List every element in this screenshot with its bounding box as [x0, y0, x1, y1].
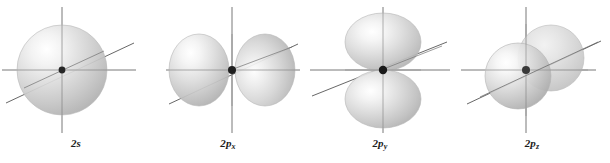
orbital-label-2pz-subscript: z	[536, 142, 539, 151]
orbital-label-2px: 2px	[152, 136, 304, 154]
nucleus-dot-2px	[228, 66, 236, 74]
orbital-label-2py: 2py	[304, 136, 456, 154]
orbital-panel-2pz: 2pz	[456, 0, 608, 163]
orbital-label-2s: 2s	[0, 136, 152, 150]
nucleus-dot-2s	[59, 67, 66, 74]
orbital-label-2s-letter: s	[77, 137, 81, 149]
orbital-label-2py-subscript: y	[384, 142, 388, 151]
orbital-lobe-2pz-near	[485, 43, 551, 109]
orbital-diagram-2px	[152, 0, 304, 140]
orbital-diagram-2pz	[456, 0, 608, 140]
orbital-panel-2px: 2px	[152, 0, 304, 163]
orbital-diagram-2s	[0, 0, 152, 140]
orbital-diagram-2py	[304, 0, 456, 140]
orbital-label-2px-subscript: x	[232, 142, 236, 151]
nucleus-dot-2pz	[522, 66, 530, 74]
orbital-panel-2s: 2s	[0, 0, 152, 163]
orbital-label-2pz: 2pz	[456, 136, 608, 154]
orbital-figure: 2s	[0, 0, 610, 163]
orbital-panel-2py: 2py	[304, 0, 456, 163]
nucleus-dot-2py	[379, 66, 387, 74]
